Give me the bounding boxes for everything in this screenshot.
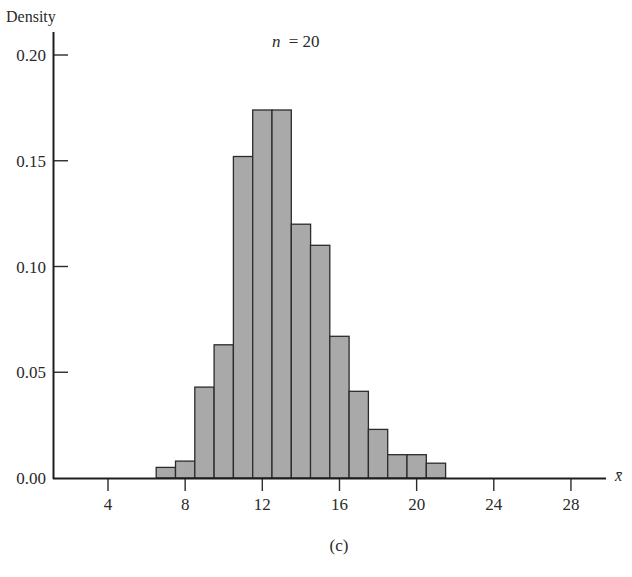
y-axis-ticks: 0.000.050.100.150.20: [16, 46, 68, 488]
sample-size-var: n: [272, 32, 281, 51]
y-axis-title: Density: [6, 8, 56, 26]
histogram-bar: [272, 110, 291, 478]
histogram-bar: [156, 467, 175, 478]
histogram-bars: [156, 110, 445, 478]
histogram-bar: [368, 429, 387, 478]
x-tick-label: 8: [181, 495, 190, 514]
histogram-bar: [311, 245, 330, 478]
y-tick-label: 0.05: [16, 363, 46, 382]
y-tick-label: 0.00: [16, 469, 46, 488]
histogram-bar: [195, 387, 214, 478]
histogram-bar: [388, 455, 407, 478]
x-tick-label: 24: [485, 495, 503, 514]
x-tick-label: 12: [254, 495, 271, 514]
x-tick-label: 20: [408, 495, 425, 514]
figure-caption: (c): [330, 536, 349, 555]
histogram-bar: [330, 336, 349, 478]
histogram-bar: [176, 461, 195, 478]
histogram-bar: [407, 455, 426, 478]
histogram-bar: [233, 157, 252, 479]
y-tick-label: 0.15: [16, 152, 46, 171]
y-tick-label: 0.10: [16, 258, 46, 277]
histogram-bar: [426, 463, 445, 478]
x-axis-ticks: 481216202428: [104, 478, 580, 514]
histogram-bar: [349, 391, 368, 478]
x-axis-title: x̄: [614, 467, 622, 484]
sample-size-value: = 20: [289, 32, 320, 51]
histogram-chart: Density n = 20 0.000.050.100.150.20 4812…: [0, 0, 632, 577]
x-tick-label: 4: [104, 495, 113, 514]
x-tick-label: 16: [331, 495, 348, 514]
histogram-bar: [253, 110, 272, 478]
histogram-bar: [214, 345, 233, 478]
y-tick-label: 0.20: [16, 46, 46, 65]
histogram-bar: [291, 224, 310, 478]
svg-text:x̄: x̄: [614, 467, 622, 484]
x-tick-label: 28: [562, 495, 579, 514]
sample-size-annotation: n = 20: [272, 32, 320, 51]
